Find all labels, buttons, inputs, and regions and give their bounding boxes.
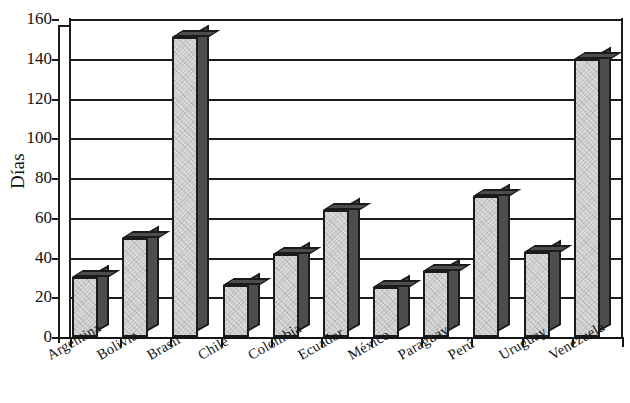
bar-front-face [223, 285, 249, 337]
bar-top-face [172, 30, 220, 37]
bar-top-face [223, 278, 271, 285]
bar-venezuela [574, 59, 600, 337]
y-axis-tick-label: 40 [12, 249, 52, 266]
y-axis-tick-mark [52, 218, 59, 220]
bar-top-face [524, 245, 572, 252]
bar-top-face [72, 270, 120, 277]
bar-front-face [574, 59, 600, 337]
bar-chile [223, 285, 249, 337]
bar-chart: Días 020406080100120140160 ArgentinaBoli… [0, 0, 630, 403]
bar-top-face [423, 264, 471, 271]
bar-front-face [172, 37, 198, 337]
axis-depth-line [58, 25, 60, 343]
y-axis-tick-label: 160 [12, 10, 52, 27]
y-axis-tick-labels: 020406080100120140160 [10, 0, 52, 403]
bar-side-face [499, 184, 510, 331]
gridline [70, 59, 622, 61]
y-axis-tick-mark [52, 19, 59, 21]
y-axis-tick-mark [52, 258, 59, 260]
x-axis-tick-mark [622, 339, 624, 347]
y-axis-tick-label: 0 [12, 328, 52, 345]
bar-bolivia [122, 238, 148, 337]
bar-front-face [473, 196, 499, 337]
bar-side-face [349, 197, 360, 331]
bar-side-face [600, 46, 611, 331]
bar-top-face [122, 231, 170, 238]
y-axis-tick-label: 80 [12, 169, 52, 186]
bar-side-face [148, 225, 159, 331]
y-axis-tick-label: 120 [12, 90, 52, 107]
y-axis-tick-mark [52, 337, 59, 339]
gridline [70, 138, 622, 140]
y-axis-tick-mark [52, 178, 59, 180]
bar-top-face [473, 189, 521, 196]
bar-side-face [550, 239, 561, 331]
bar-per [473, 196, 499, 337]
bar-top-face [373, 280, 421, 287]
gridline [70, 99, 622, 101]
y-axis-tick-mark [52, 138, 59, 140]
bar-front-face [122, 238, 148, 337]
gridline [70, 178, 622, 180]
gridline [70, 19, 622, 21]
bar-top-face [574, 52, 622, 59]
bar-side-face [299, 241, 310, 331]
y-axis-tick-label: 60 [12, 209, 52, 226]
bar-front-face [323, 210, 349, 337]
y-axis-tick-mark [52, 297, 59, 299]
plot-area [70, 19, 622, 337]
y-axis-tick-mark [52, 59, 59, 61]
y-axis-tick-label: 140 [12, 50, 52, 67]
bar-top-face [273, 247, 321, 254]
bar-top-face [323, 203, 371, 210]
y-axis-tick-label: 20 [12, 288, 52, 305]
y-axis-tick-mark [52, 99, 59, 101]
bar-side-face [198, 25, 209, 331]
bar-brasil [172, 37, 198, 337]
y-axis-tick-label: 100 [12, 129, 52, 146]
bar-ecuador [323, 210, 349, 337]
